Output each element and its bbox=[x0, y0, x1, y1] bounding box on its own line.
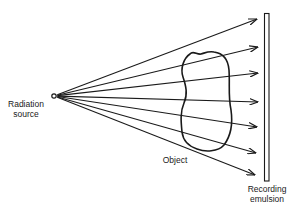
emulsion-label-line1: Recording bbox=[244, 184, 290, 194]
source-label-line2: source bbox=[2, 109, 50, 119]
ray-arrow-6 bbox=[57, 97, 256, 153]
ray-arrow-7 bbox=[57, 97, 255, 175]
radiation-source-label: Radiation source bbox=[2, 99, 50, 119]
radiography-diagram: Radiation source Object Recording emulsi… bbox=[0, 0, 290, 209]
source-label-line1: Radiation bbox=[2, 99, 50, 109]
recording-emulsion-label: Recording emulsion bbox=[244, 184, 290, 204]
ray-arrow-1 bbox=[57, 19, 257, 95]
emulsion-label-line2: emulsion bbox=[244, 194, 290, 204]
ray-arrow-2 bbox=[57, 47, 258, 95]
object-label: Object bbox=[160, 155, 190, 165]
radiation-rays bbox=[57, 19, 258, 175]
recording-emulsion bbox=[265, 14, 270, 182]
ray-arrow-3 bbox=[57, 73, 258, 96]
radiation-source-icon bbox=[52, 94, 56, 98]
